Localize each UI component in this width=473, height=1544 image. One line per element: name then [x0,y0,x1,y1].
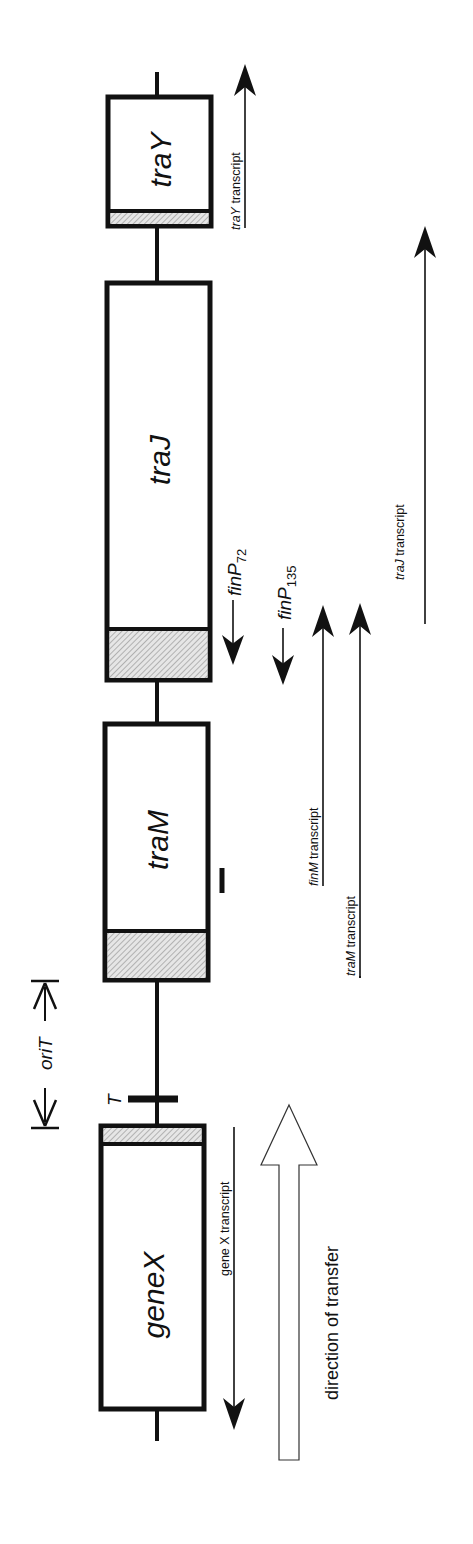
terminator-label: T [104,1093,125,1106]
gene-label: traM [141,810,174,870]
gene-boxes: traYtraJtraMgeneX [101,97,211,1409]
oriT-region-genetic-map: traYtraJtraMgeneX ToriT traY transcriptt… [0,0,473,1544]
gene-geneX: geneX [101,1126,204,1409]
direction-of-transfer-label: direction of transfer [322,1246,342,1400]
hatched-region [110,629,208,678]
gene-traM: traM [105,724,208,980]
direction-of-transfer: direction of transfer [261,1105,342,1460]
gene-traY: traY [108,97,211,226]
hatched-region [108,931,206,978]
transcript-label: traJ transcript [393,504,407,580]
oriT-marker: oriT [31,981,59,1128]
transcript-traM: traM transcript [344,603,371,978]
hollow-arrow-up-icon [261,1105,317,1460]
transcript-traJ: traJ transcript [393,226,436,624]
fin-promoters: finP72finP135 [222,549,299,685]
promoter-finP135: finP135 [272,566,299,685]
hatched-region [104,1128,202,1144]
gene-label: traY [144,131,177,188]
promoter-label: finP72 [224,549,249,596]
transcript-finM: finM transcript [307,605,334,886]
transcript-geneX: gene X transcript [218,1127,245,1430]
transcript-label: traY transcript [229,152,243,230]
gene-label: traJ [143,434,176,485]
transcript-label: finM transcript [307,807,321,886]
transcript-label: traM transcript [344,896,358,976]
transcript-traY: traY transcript [229,64,256,230]
transcripts: traY transcripttraJ transcriptfinM trans… [218,64,436,1430]
promoter-finP72: finP72 [222,549,249,665]
promoter-label: finP135 [274,566,299,620]
gene-traJ: traJ [107,283,210,680]
transcript-label: gene X transcript [218,1181,232,1276]
gene-label: geneX [137,1251,170,1339]
oriT-label: oriT [35,1036,56,1070]
